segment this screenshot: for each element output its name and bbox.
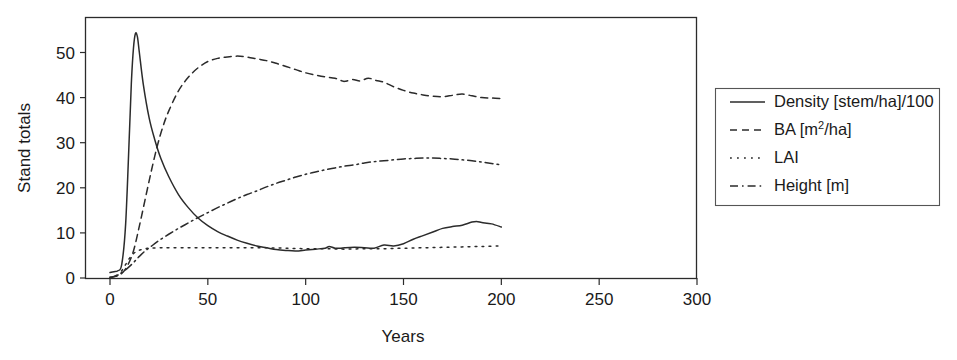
- series-group: [110, 33, 501, 278]
- chart-figure: 01020304050 Stand totals 050100150200250…: [0, 0, 957, 360]
- x-tick-label: 300: [683, 290, 711, 309]
- chart-svg: 01020304050 Stand totals 050100150200250…: [0, 0, 957, 360]
- x-tick-label: 250: [585, 290, 613, 309]
- legend-label: BA [m2/ha]: [774, 119, 852, 138]
- series-line: [110, 56, 501, 277]
- y-tick-label: 40: [56, 89, 75, 108]
- y-tick-label: 30: [56, 134, 75, 153]
- x-tick-label: 200: [487, 290, 515, 309]
- y-tick-label: 50: [56, 44, 75, 63]
- plot-frame: [86, 18, 697, 279]
- legend-label-post: /ha]: [824, 120, 852, 138]
- y-tick-group: 01020304050: [56, 44, 86, 289]
- legend-label: LAI: [774, 148, 799, 166]
- y-axis-title: Stand totals: [15, 103, 34, 193]
- x-tick-label: 0: [105, 290, 114, 309]
- x-axis-title: Years: [382, 327, 425, 346]
- x-tick-label: 50: [198, 290, 217, 309]
- y-axis: 01020304050 Stand totals: [15, 44, 86, 289]
- legend-label-pre: BA [m: [774, 120, 818, 138]
- x-tick-label: 150: [389, 290, 417, 309]
- legend: Density [stem/ha]/100BA [m2/ha]LAIHeight…: [716, 89, 940, 206]
- legend-label: Density [stem/ha]/100: [774, 92, 934, 110]
- legend-label: Height [m]: [774, 176, 849, 194]
- y-tick-label: 0: [66, 269, 75, 288]
- series-line: [110, 33, 501, 273]
- x-tick-group: 050100150200250300: [105, 278, 711, 309]
- y-tick-label: 10: [56, 224, 75, 243]
- x-axis: 050100150200250300 Years: [105, 278, 711, 346]
- x-tick-label: 100: [291, 290, 319, 309]
- y-tick-label: 20: [56, 179, 75, 198]
